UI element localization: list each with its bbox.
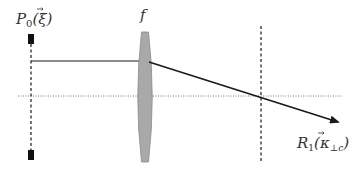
source-plane-bottom-marker: [28, 150, 34, 160]
refracted-ray: [149, 62, 338, 122]
lens-focal-label: f: [139, 6, 148, 24]
source-plane: [28, 34, 34, 160]
optics-diagram: P0(ξ) f R1(κ⊥c): [0, 0, 364, 169]
detector-plane-label: R1(κ⊥c): [296, 134, 349, 153]
lens: [138, 32, 153, 162]
source-plane-label: P0(ξ): [15, 10, 53, 29]
source-plane-top-marker: [28, 34, 34, 44]
